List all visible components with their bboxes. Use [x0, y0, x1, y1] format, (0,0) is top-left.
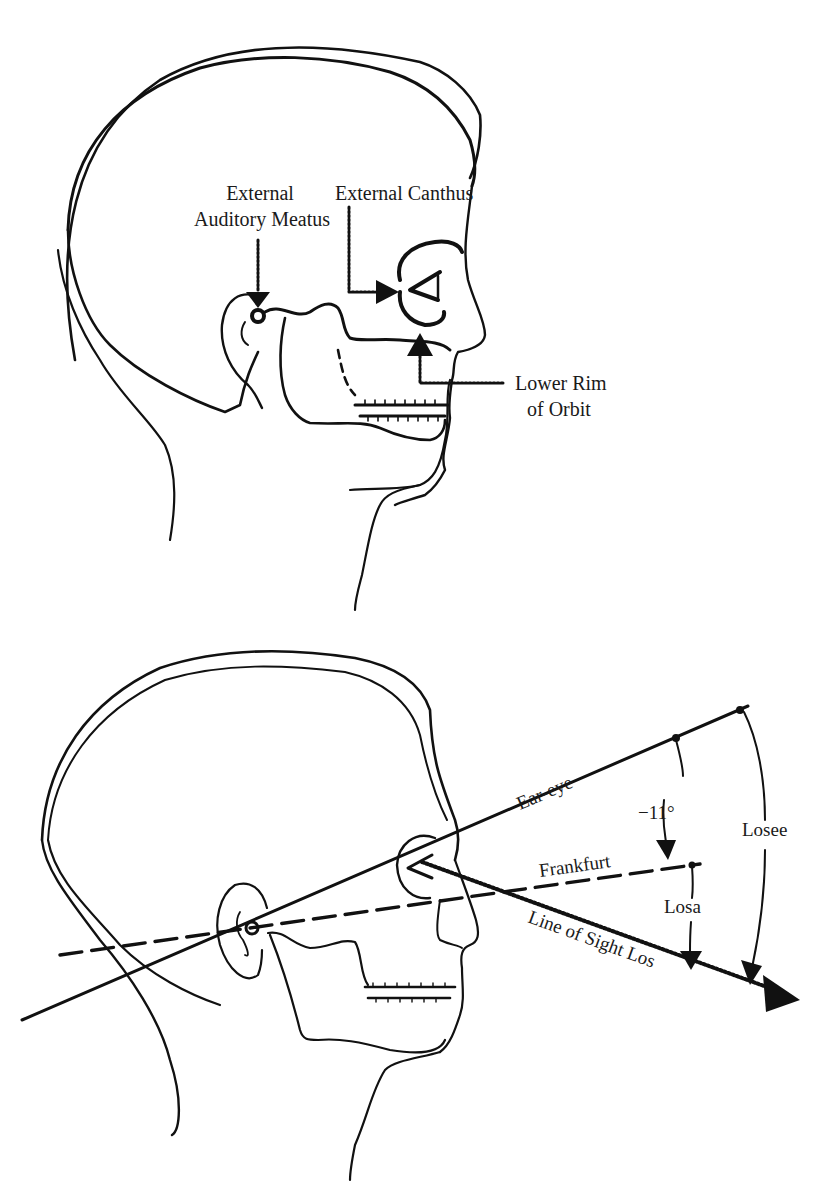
ear-eye-line	[22, 706, 748, 1020]
label-angle: −11°	[638, 802, 675, 823]
top-skull-outline	[68, 57, 475, 230]
top-canthus-arrowhead-icon	[376, 280, 399, 304]
top-orbit	[399, 242, 462, 325]
bottom-nose-inner	[437, 900, 462, 948]
line-of-sight-arrowhead-icon	[763, 975, 800, 1012]
top-canthus-pointer-line	[349, 207, 378, 292]
top-mandible-dashed	[338, 350, 355, 395]
label-ear-eye: Ear-eye	[513, 771, 575, 813]
label-auditory-meatus: Auditory Meatus	[194, 208, 330, 231]
top-lower-rim-pointer-line	[420, 356, 505, 383]
bottom-occipital-inner	[48, 840, 220, 1005]
bottom-scalp-outline	[42, 651, 458, 860]
label-of-orbit: of Orbit	[527, 398, 591, 420]
ear-eye-point-2-icon	[736, 706, 744, 714]
bottom-mandible	[270, 935, 445, 1052]
losee-arrowhead-icon	[741, 960, 762, 985]
top-ear-inner	[242, 322, 248, 345]
bottom-head-back	[42, 840, 179, 1135]
top-auditory-arrowhead-icon	[246, 292, 270, 308]
bottom-zygomatic-line	[268, 933, 368, 985]
label-external-canthus: External Canthus	[335, 182, 474, 204]
losee-arc	[744, 712, 765, 968]
angle-arrowhead-icon	[656, 840, 676, 860]
bottom-head-figure: Ear-eye −11° Frankfurt Losa Losee Line o…	[22, 651, 800, 1180]
bottom-eye	[408, 855, 432, 878]
bottom-face-profile	[440, 860, 478, 1052]
top-head-back-inner	[68, 230, 258, 412]
label-frankfurt: Frankfurt	[538, 850, 613, 881]
top-neck-back	[58, 250, 174, 540]
losa-arrowhead-icon	[680, 951, 702, 970]
angle-arc	[663, 740, 683, 842]
top-head-figure: External Auditory Meatus External Canthu…	[58, 47, 607, 610]
label-losa: Losa	[664, 896, 702, 917]
top-lower-rim-arrowhead-icon	[407, 333, 433, 356]
label-lower-rim: Lower Rim	[515, 372, 607, 394]
diagram-svg: External Auditory Meatus External Canthu…	[0, 0, 832, 1198]
top-auditory-meatus-marker	[252, 310, 264, 322]
top-throat	[355, 485, 420, 610]
top-eye	[410, 272, 440, 300]
diagram-canvas: External Auditory Meatus External Canthu…	[0, 0, 832, 1198]
label-external: External	[226, 182, 294, 204]
line-of-sight-line	[422, 862, 775, 990]
label-losee: Losee	[742, 819, 787, 840]
bottom-skull-outline	[48, 667, 447, 840]
bottom-ear-inner	[237, 912, 248, 956]
bottom-throat	[350, 1052, 440, 1180]
